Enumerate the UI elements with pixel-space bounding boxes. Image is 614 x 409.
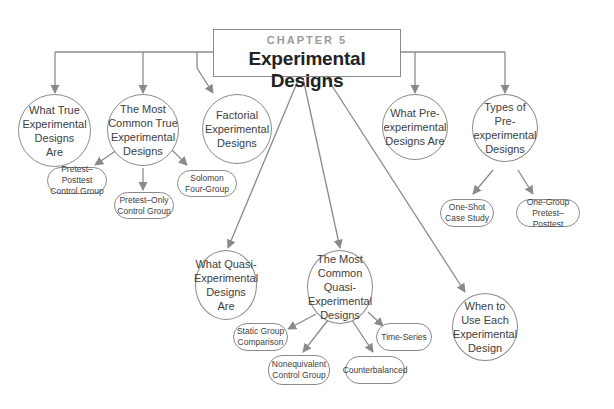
- node-types-pre-label: Types of Pre- experimental Designs: [473, 100, 537, 156]
- arrow-to-one-shot: [473, 170, 493, 194]
- leaf-pretest-posttest[interactable]: Pretest–Posttest Control Group: [47, 167, 107, 194]
- chapter-title-box: CHAPTER 5 Experimental Designs: [213, 29, 401, 77]
- leaf-static-group-label: Static Group Comparison: [237, 326, 284, 348]
- node-most-common-quasi[interactable]: The Most Common Quasi- Experimental Desi…: [307, 250, 373, 324]
- node-what-true[interactable]: What True Experimental Designs Are: [18, 94, 91, 167]
- node-what-pre-label: What Pre- experimental Designs Are: [384, 106, 447, 148]
- node-what-quasi[interactable]: What Quasi- Experimental Designs Are: [195, 250, 257, 320]
- leaf-counterbalanced-label: Counterbalanced: [343, 365, 408, 376]
- leaf-pretest-only[interactable]: Pretest–Only Control Group: [114, 192, 174, 219]
- leaf-time-series-label: Time-Series: [381, 332, 427, 343]
- arrow-to-nonequivalent: [303, 320, 328, 352]
- node-what-pre[interactable]: What Pre- experimental Designs Are: [382, 94, 448, 160]
- arrow-to-counterbalanced: [352, 320, 373, 352]
- leaf-pretest-posttest-label: Pretest–Posttest Control Group: [48, 164, 106, 197]
- leaf-static-group[interactable]: Static Group Comparison: [233, 323, 288, 351]
- leaf-solomon[interactable]: Solomon Four-Group: [177, 170, 237, 197]
- leaf-one-group-label: One-Group Pretest–Posttest: [517, 197, 579, 230]
- leaf-nonequivalent[interactable]: Nonequivalent Control Group: [268, 355, 330, 385]
- arrow-to-most-common-quasi: [303, 78, 340, 248]
- node-what-quasi-label: What Quasi- Experimental Designs Are: [194, 257, 258, 313]
- arrow-to-one-group: [518, 170, 533, 194]
- node-when-to-use[interactable]: When to Use Each Experimental Design: [452, 293, 518, 361]
- leaf-solomon-label: Solomon Four-Group: [185, 173, 229, 195]
- node-what-true-label: What True Experimental Designs Are: [22, 103, 86, 159]
- leaf-counterbalanced[interactable]: Counterbalanced: [345, 356, 405, 384]
- chapter-label: CHAPTER 5: [214, 34, 400, 46]
- leaf-one-shot[interactable]: One-Shot Case Study: [440, 199, 494, 227]
- node-factorial[interactable]: Factorial Experimental Designs: [202, 94, 272, 164]
- arrow-to-factorial: [197, 52, 213, 93]
- page-title: Experimental Designs: [214, 48, 400, 92]
- leaf-one-group[interactable]: One-Group Pretest–Posttest: [516, 199, 580, 227]
- node-most-common-true[interactable]: The Most Common True Experimental Design…: [107, 94, 179, 166]
- leaf-one-shot-label: One-Shot Case Study: [445, 202, 489, 224]
- leaf-pretest-only-label: Pretest–Only Control Group: [117, 195, 170, 217]
- node-when-to-use-label: When to Use Each Experimental Design: [453, 299, 517, 355]
- node-most-common-quasi-label: The Most Common Quasi- Experimental Desi…: [308, 252, 372, 322]
- node-most-common-true-label: The Most Common True Experimental Design…: [108, 102, 178, 158]
- node-types-pre[interactable]: Types of Pre- experimental Designs: [472, 94, 538, 162]
- node-factorial-label: Factorial Experimental Designs: [205, 108, 269, 150]
- leaf-time-series[interactable]: Time-Series: [376, 323, 432, 351]
- leaf-nonequivalent-label: Nonequivalent Control Group: [272, 359, 326, 381]
